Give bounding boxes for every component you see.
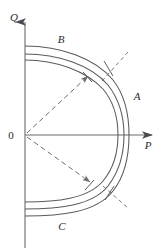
- lower-ray: [27, 137, 90, 182]
- q-axis-label: Q: [10, 11, 18, 23]
- dashed-rays-group: [27, 76, 90, 182]
- curve-c-label: C: [58, 220, 66, 232]
- upper-short-dash: [102, 52, 128, 81]
- curve-b-label: B: [58, 33, 65, 45]
- pq-diagram-canvas: 0 Q P A B C: [0, 0, 164, 252]
- origin-label: 0: [8, 129, 14, 141]
- upper-ray: [27, 76, 88, 133]
- pq-diagram-figure: 0 Q P A B C: [0, 0, 164, 252]
- labels-group: 0 Q P A B C: [8, 11, 151, 232]
- upper-inner-tick: [83, 72, 92, 82]
- axes-group: [25, 22, 152, 248]
- middle-curve: [25, 54, 124, 209]
- tick-marks-group: [83, 61, 114, 200]
- p-axis-label: P: [144, 139, 152, 151]
- capability-curves-group: [25, 46, 129, 216]
- curve-a-label: A: [133, 90, 141, 102]
